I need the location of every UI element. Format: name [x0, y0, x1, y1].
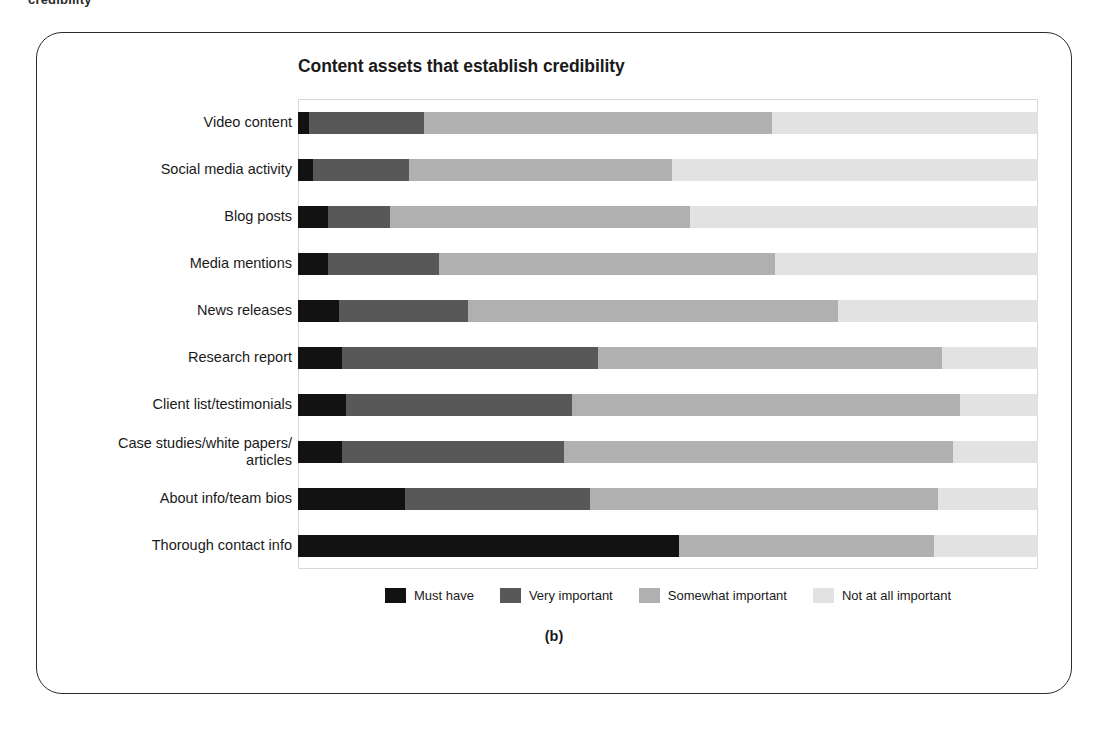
- bar-segment: [298, 112, 309, 134]
- stacked-bar: [298, 206, 1038, 228]
- bar-segment: [309, 112, 424, 134]
- legend-label: Not at all important: [842, 588, 951, 603]
- bar-segment: [405, 488, 590, 510]
- y-axis-label: Video content: [60, 114, 292, 131]
- bar-row: [298, 240, 1038, 287]
- bar-segment: [590, 488, 938, 510]
- y-axis-label: About info/team bios: [60, 490, 292, 507]
- bar-segment: [298, 535, 679, 557]
- stacked-bar: [298, 112, 1038, 134]
- bar-segment: [938, 488, 1038, 510]
- bar-segment: [838, 300, 1038, 322]
- stacked-bar: [298, 159, 1038, 181]
- legend-swatch-icon: [639, 588, 660, 603]
- bar-segment: [960, 394, 1038, 416]
- y-axis-label: Media mentions: [60, 255, 292, 272]
- bar-segment: [328, 206, 391, 228]
- bar-segment: [298, 253, 328, 275]
- bar-segment: [342, 441, 564, 463]
- bar-row: [298, 99, 1038, 146]
- bar-segment: [424, 112, 772, 134]
- bar-segment: [775, 253, 1038, 275]
- y-axis-label: Client list/testimonials: [60, 396, 292, 413]
- y-axis-label: Thorough contact info: [60, 537, 292, 554]
- bar-segment: [342, 347, 597, 369]
- legend-swatch-icon: [813, 588, 834, 603]
- stacked-bar: [298, 441, 1038, 463]
- stacked-bar: [298, 488, 1038, 510]
- bar-segment: [298, 300, 339, 322]
- bar-row: [298, 334, 1038, 381]
- bar-segment: [298, 488, 405, 510]
- legend-item[interactable]: Very important: [500, 588, 613, 603]
- y-axis-label: Research report: [60, 349, 292, 366]
- bar-row: [298, 428, 1038, 475]
- running-body-text: credibility: [28, 0, 92, 8]
- bar-segment: [690, 206, 1038, 228]
- bar-segment: [934, 535, 1038, 557]
- bar-segment: [328, 253, 439, 275]
- bar-rows: [298, 99, 1038, 569]
- bar-segment: [313, 159, 409, 181]
- y-axis-label: Social media activity: [60, 161, 292, 178]
- legend-label: Must have: [414, 588, 474, 603]
- bar-segment: [564, 441, 953, 463]
- bar-segment: [339, 300, 469, 322]
- legend-label: Very important: [529, 588, 613, 603]
- bar-segment: [298, 347, 342, 369]
- bar-segment: [679, 535, 934, 557]
- bar-row: [298, 287, 1038, 334]
- y-axis-label: Case studies/white papers/ articles: [60, 435, 292, 469]
- bar-segment: [390, 206, 690, 228]
- legend-swatch-icon: [385, 588, 406, 603]
- chart-legend: Must haveVery importantSomewhat importan…: [298, 588, 1038, 603]
- bar-segment: [298, 394, 346, 416]
- legend-item[interactable]: Not at all important: [813, 588, 951, 603]
- legend-item[interactable]: Somewhat important: [639, 588, 787, 603]
- bar-segment: [672, 159, 1038, 181]
- stacked-bar: [298, 535, 1038, 557]
- bar-row: [298, 522, 1038, 569]
- y-axis-label: News releases: [60, 302, 292, 319]
- bar-segment: [298, 441, 342, 463]
- stacked-bar: [298, 253, 1038, 275]
- bar-segment: [953, 441, 1038, 463]
- stacked-bar: [298, 347, 1038, 369]
- y-axis-label: Blog posts: [60, 208, 292, 225]
- bar-segment: [409, 159, 672, 181]
- bar-segment: [298, 159, 313, 181]
- stacked-bar: [298, 300, 1038, 322]
- stacked-bar: [298, 394, 1038, 416]
- y-axis-labels: Video contentSocial media activityBlog p…: [60, 99, 292, 569]
- bar-segment: [439, 253, 776, 275]
- bar-segment: [772, 112, 1038, 134]
- bar-segment: [572, 394, 961, 416]
- bar-row: [298, 146, 1038, 193]
- bar-segment: [942, 347, 1038, 369]
- bar-row: [298, 381, 1038, 428]
- legend-swatch-icon: [500, 588, 521, 603]
- figure-caption: (b): [0, 628, 1108, 644]
- legend-item[interactable]: Must have: [385, 588, 474, 603]
- bar-segment: [598, 347, 942, 369]
- chart-title: Content assets that establish credibilit…: [298, 56, 625, 77]
- bar-segment: [346, 394, 572, 416]
- bar-row: [298, 475, 1038, 522]
- bar-row: [298, 193, 1038, 240]
- legend-label: Somewhat important: [668, 588, 787, 603]
- bar-segment: [468, 300, 838, 322]
- bar-segment: [298, 206, 328, 228]
